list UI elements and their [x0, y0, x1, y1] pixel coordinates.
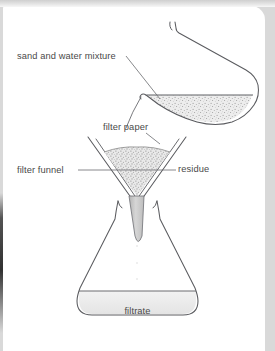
diagram-page: sand and water mixture filter paper filt… — [0, 0, 275, 351]
funnel-stem — [129, 196, 144, 242]
speckled-residue-icon — [104, 147, 170, 196]
leader-line-mixture — [126, 56, 160, 99]
label-filter-paper: filter paper — [103, 122, 148, 132]
beaker-icon — [140, 22, 259, 125]
drip-mark — [136, 278, 138, 280]
flask-neck-left-hook — [118, 201, 122, 208]
label-sand-and-water-mixture: sand and water mixture — [17, 51, 116, 61]
drip-mark — [136, 245, 138, 247]
beaker-rim-hook — [170, 22, 172, 30]
beaker-spout-icon — [140, 94, 146, 99]
funnel-icon — [88, 137, 186, 242]
flask-neck-right-hook — [153, 201, 157, 208]
label-filter-funnel: filter funnel — [17, 165, 64, 175]
speckled-liquid-icon — [148, 95, 252, 122]
label-filtrate: filtrate — [0, 306, 275, 316]
drip-mark — [136, 262, 138, 264]
leader-line-filter-paper — [146, 133, 160, 144]
label-residue: residue — [178, 164, 209, 174]
